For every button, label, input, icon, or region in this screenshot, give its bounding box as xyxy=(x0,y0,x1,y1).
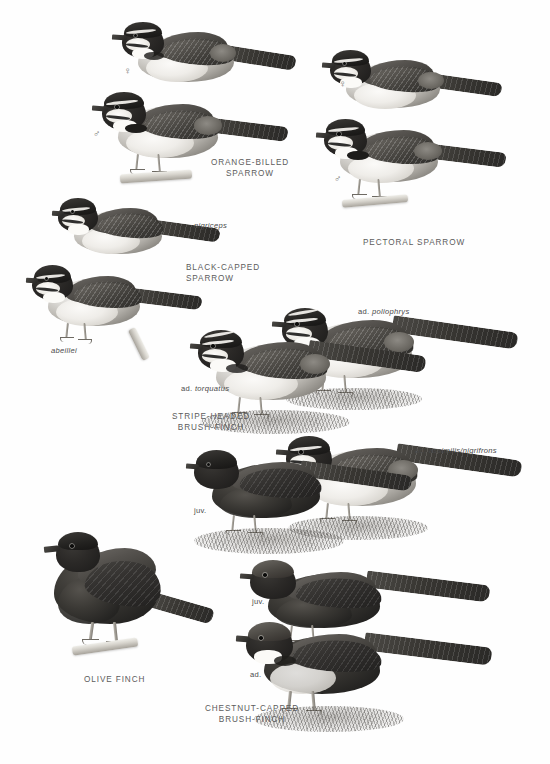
label-ad-assimilis-nigrifrons: ad. assimilis/nigrifrons xyxy=(415,446,497,455)
perch-branch xyxy=(128,327,150,361)
bill xyxy=(240,574,254,580)
subspecies-name: assimilis/nigrifrons xyxy=(429,446,497,455)
label-abeillei: abeillei xyxy=(51,346,77,355)
label-olive-finch: OLIVE FINCH xyxy=(84,675,184,686)
label-chestnut-capped-brush-finch: CHESTNUT-CAPPED BRUSH-FINCH xyxy=(190,704,314,725)
breast-band xyxy=(274,656,296,666)
tail xyxy=(365,571,490,603)
foot-front xyxy=(60,337,74,342)
leg-rear xyxy=(113,622,118,642)
sex-symbol-male-orange-billed: ♂ xyxy=(93,129,101,139)
bill xyxy=(322,63,335,69)
breast-band xyxy=(226,364,248,373)
bird-chestnut-capped-brush-finch-adult xyxy=(236,618,496,744)
bill xyxy=(316,133,330,139)
bird-orange-billed-sparrow-female xyxy=(110,18,290,96)
chestnut-cap xyxy=(248,622,291,641)
label-black-capped-sparrow: BLACK-CAPPED SPARROW xyxy=(186,263,296,284)
leg-front xyxy=(357,179,361,195)
label-ad-torquatus: ad. torquatus xyxy=(181,384,229,393)
foot-rear xyxy=(78,339,92,344)
chestnut-cap xyxy=(252,560,294,578)
sex-symbol-female-orange-billed: ♀ xyxy=(124,66,132,76)
bird-stripe-headed-brush-finch-juvenile xyxy=(186,444,416,556)
bill xyxy=(186,464,199,470)
breast-band xyxy=(125,124,147,133)
bird-pectoral-sparrow-female xyxy=(322,48,508,124)
eye xyxy=(259,636,263,640)
label-ad-poliophrys: ad. poliophrys xyxy=(358,307,410,316)
breast-band xyxy=(144,52,164,60)
eye xyxy=(211,344,215,348)
label-nigriceps: nigriceps xyxy=(194,221,227,230)
black-cap xyxy=(60,198,96,215)
age-prefix: ad. xyxy=(415,446,426,455)
crown xyxy=(196,450,237,469)
crown xyxy=(58,532,98,550)
rump xyxy=(414,142,442,160)
leg-front xyxy=(65,323,69,338)
tail xyxy=(363,632,492,665)
bill xyxy=(52,211,64,217)
label-orange-billed-sparrow: ORANGE-BILLED SPARROW xyxy=(196,158,304,179)
bird-black-capped-sparrow-nigriceps xyxy=(52,196,220,266)
label-juv-stripe-headed: juv. xyxy=(194,506,206,515)
age-prefix: ad. xyxy=(181,384,192,393)
eye xyxy=(115,105,119,109)
ground-shadow xyxy=(194,528,344,554)
eye xyxy=(70,544,74,548)
sex-symbol-male-pectoral: ♂ xyxy=(334,174,342,184)
leg-front xyxy=(89,622,94,640)
label-stripe-headed-brush-finch: STRIPE-HEADED BRUSH-FINCH xyxy=(155,412,267,433)
bird-pectoral-sparrow-male xyxy=(316,116,512,216)
rump xyxy=(194,116,222,135)
throat xyxy=(43,292,65,303)
bill xyxy=(92,105,108,111)
bill xyxy=(112,34,127,40)
rump xyxy=(210,44,236,62)
bill xyxy=(190,344,203,350)
label-ad-chestnut-capped: ad. xyxy=(250,670,261,679)
subspecies-name: torquatus xyxy=(195,384,229,393)
eye xyxy=(263,573,267,577)
label-juv-chestnut-capped: juv. xyxy=(252,597,264,606)
bill xyxy=(236,636,250,643)
throat xyxy=(68,224,89,235)
age-prefix: ad. xyxy=(358,307,369,316)
rump xyxy=(300,354,330,374)
label-pectoral-sparrow: PECTORAL SPARROW xyxy=(363,238,513,249)
sex-symbol-female-pectoral: ♀ xyxy=(339,79,347,89)
subspecies-name: poliophrys xyxy=(372,307,410,316)
bill xyxy=(26,278,38,284)
bird-olive-finch xyxy=(42,526,210,666)
rump xyxy=(418,72,444,89)
leg-front xyxy=(135,154,139,170)
illustration-plate: ♀ ♂ ORANGE-BILLED SPARROW xyxy=(0,0,550,764)
pectoral-band xyxy=(347,151,369,160)
eye xyxy=(337,132,341,136)
